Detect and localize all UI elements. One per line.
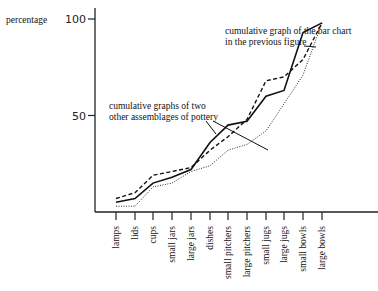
annotation-bar-chart: in the previous figure <box>225 37 307 47</box>
x-tick-label: large jugs <box>279 226 289 263</box>
x-tick-label: large bowls <box>317 226 327 270</box>
x-tick-label: lamps <box>111 226 121 249</box>
cumulative-chart: cumulative graph of the bar chartin the … <box>0 0 378 291</box>
x-tick-label: lids <box>130 226 140 240</box>
labels: 50100percentagelampslidscupssmall jarsla… <box>6 13 327 279</box>
x-tick-label: dishes <box>205 226 215 250</box>
annotation-leader-line <box>213 121 268 150</box>
y-tick-label: 100 <box>65 13 86 26</box>
x-tick-label: small bowls <box>298 226 308 272</box>
annotation-other-assemblages: cumulative graphs of two <box>109 101 206 111</box>
x-tick-label: large jars <box>186 226 196 261</box>
x-tick-label: small jugs <box>261 226 271 265</box>
x-tick-label: cups <box>148 226 158 244</box>
y-tick-label: 50 <box>72 110 86 123</box>
annotation-bar-chart: cumulative graph of the bar chart <box>225 26 352 36</box>
y-axis-label: percentage <box>6 15 47 25</box>
annotation-leader-line <box>206 121 216 134</box>
x-tick-label: large pitchers <box>242 226 252 278</box>
x-tick-label: small pitchers <box>223 226 233 279</box>
annotation-other-assemblages: other assemblages of pottery <box>109 112 218 122</box>
x-tick-label: small jars <box>167 226 177 263</box>
annotations: cumulative graph of the bar chartin the … <box>109 26 352 150</box>
